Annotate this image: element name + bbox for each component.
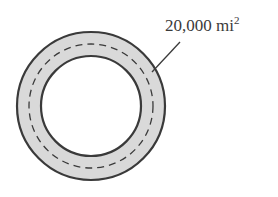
inner-circle xyxy=(41,56,141,156)
area-unit-exponent: 2 xyxy=(234,14,240,26)
leader-line xyxy=(152,42,180,72)
area-value: 20,000 mi xyxy=(165,16,234,35)
area-label: 20,000 mi2 xyxy=(165,16,239,36)
